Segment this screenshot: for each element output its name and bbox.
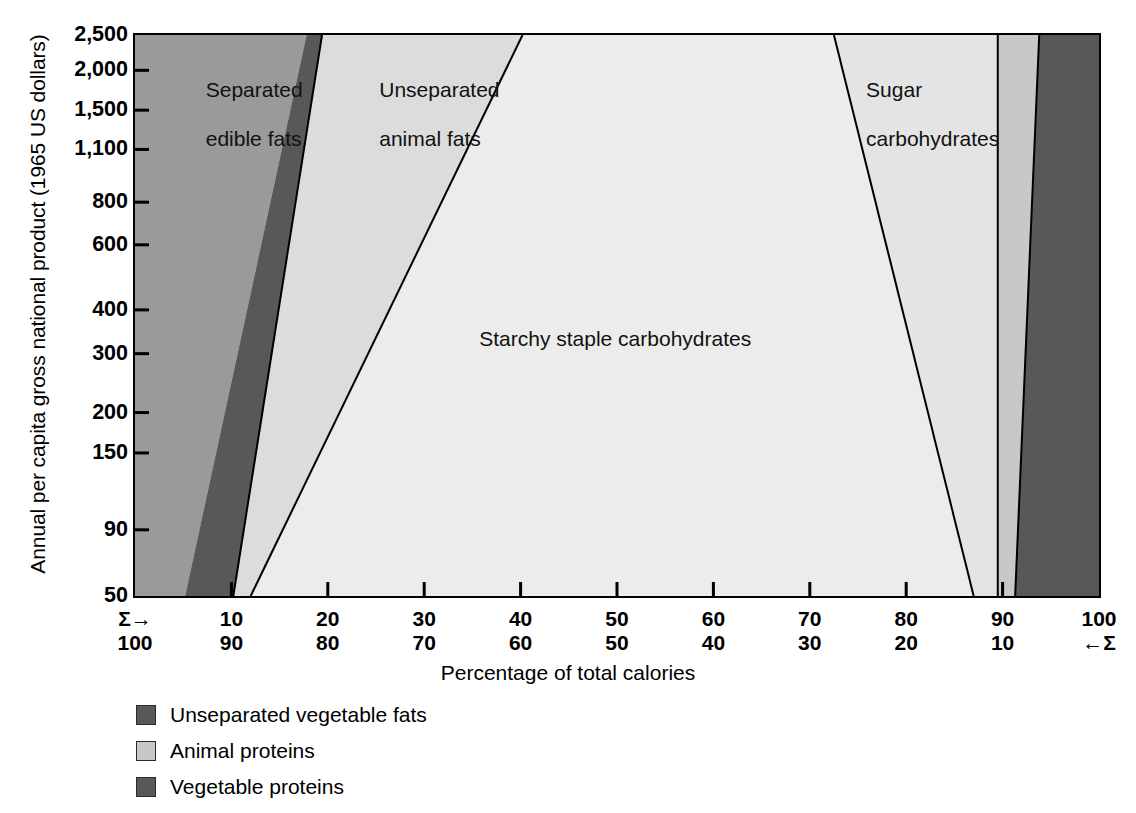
y-tick-label: 400 — [92, 299, 128, 321]
plot-regions-svg — [135, 35, 1099, 596]
legend-item: Vegetable proteins — [136, 769, 427, 805]
x-tick-label-bottom: 80 — [288, 632, 368, 653]
x-tick-label-top: 60 — [673, 608, 753, 629]
x-tick-label-top: 90 — [963, 608, 1043, 629]
legend-item-label: Unseparated vegetable fats — [170, 703, 427, 727]
y-tick-label: 2,500 — [74, 24, 128, 46]
legend-item-label: Animal proteins — [170, 739, 315, 763]
y-axis-title: Annual per capita gross national product… — [26, 4, 50, 604]
y-tick-label: 2,000 — [74, 59, 128, 81]
x-tick-label-bottom: 100 — [95, 632, 175, 653]
x-tick-label-top: Σ→ — [95, 608, 175, 629]
x-tick-label-bottom: 30 — [770, 632, 850, 653]
legend-item: Animal proteins — [136, 733, 427, 769]
y-tick-label: 90 — [104, 519, 128, 541]
y-tick-label: 1,500 — [74, 99, 128, 121]
y-tick-label: 1,100 — [74, 138, 128, 160]
y-tick-label: 300 — [92, 343, 128, 365]
y-tick-label: 600 — [92, 234, 128, 256]
y-tick-label: 800 — [92, 191, 128, 213]
x-tick-label-top: 20 — [288, 608, 368, 629]
x-tick-label-top: 30 — [384, 608, 464, 629]
x-tick-label-top: 10 — [191, 608, 271, 629]
x-tick-label-bottom: 40 — [673, 632, 753, 653]
legend-swatch-icon — [136, 741, 156, 761]
x-tick-label-top: 40 — [481, 608, 561, 629]
y-tick-label: 150 — [92, 442, 128, 464]
x-axis-title: Percentage of total calories — [0, 661, 1136, 685]
legend-item: Unseparated vegetable fats — [136, 697, 427, 733]
x-tick-label-bottom: 20 — [866, 632, 946, 653]
x-tick-label-bottom: 10 — [963, 632, 1043, 653]
x-tick-label-bottom: ←Σ — [1059, 632, 1136, 653]
x-tick-label-bottom: 70 — [384, 632, 464, 653]
x-tick-label-top: 50 — [577, 608, 657, 629]
chart-figure: Annual per capita gross national product… — [0, 0, 1136, 813]
x-tick-label-top: 80 — [866, 608, 946, 629]
x-tick-label-bottom: 50 — [577, 632, 657, 653]
x-tick-label-bottom: 90 — [191, 632, 271, 653]
y-tick-label: 50 — [104, 585, 128, 607]
plot-area: Separated edible fats Unseparated animal… — [133, 33, 1101, 598]
x-tick-label-bottom: 60 — [481, 632, 561, 653]
chart-legend: Unseparated vegetable fatsAnimal protein… — [136, 697, 427, 805]
legend-item-label: Vegetable proteins — [170, 775, 344, 799]
x-tick-label-top: 100 — [1059, 608, 1136, 629]
legend-swatch-icon — [136, 777, 156, 797]
y-tick-label: 200 — [92, 402, 128, 424]
legend-swatch-icon — [136, 705, 156, 725]
x-tick-label-top: 70 — [770, 608, 850, 629]
